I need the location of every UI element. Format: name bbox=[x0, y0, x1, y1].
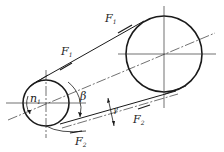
f2-arrow-right bbox=[138, 105, 150, 109]
label-f2-right: F2 bbox=[132, 113, 145, 126]
belt-upper-span bbox=[36, 21, 144, 82]
label-speed: n1 bbox=[30, 92, 41, 105]
large-pulley bbox=[118, 6, 216, 108]
label-f1-top: F1 bbox=[104, 12, 116, 25]
center-line bbox=[8, 33, 215, 120]
wrap-angle-arrowhead bbox=[78, 112, 82, 117]
f1-arrow-mid bbox=[60, 63, 72, 70]
belt-lower-extension bbox=[165, 86, 186, 94]
belt-drive-diagram: F1 F1 F2 F2 β γ n1 bbox=[0, 0, 224, 152]
belt-lower-span bbox=[60, 91, 176, 124]
label-f2-bottom: F2 bbox=[74, 135, 87, 148]
label-belt-angle: γ bbox=[113, 105, 118, 114]
label-wrap-angle: β bbox=[79, 90, 86, 103]
label-f1-mid: F1 bbox=[60, 45, 72, 58]
